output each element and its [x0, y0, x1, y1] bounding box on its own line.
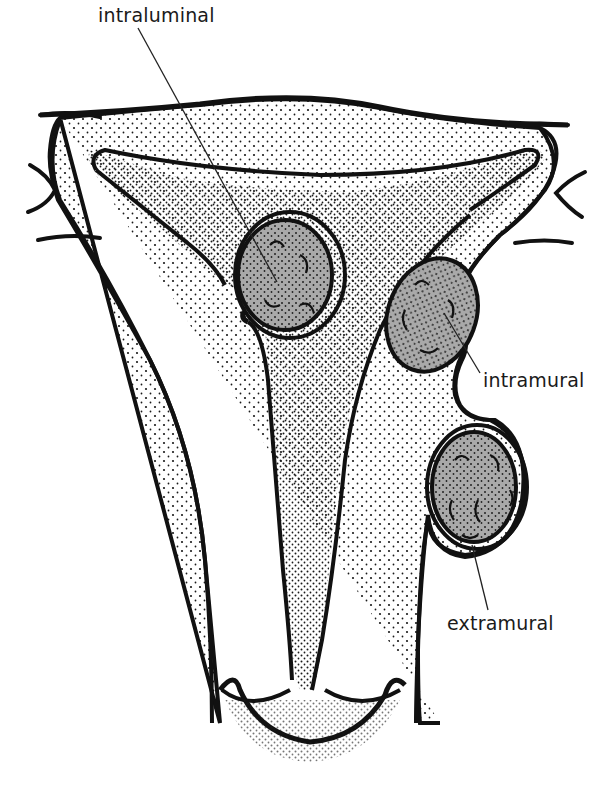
label-intramural: intramural — [483, 369, 585, 391]
label-intraluminal: intraluminal — [98, 4, 215, 26]
intraluminal-fibroid — [235, 212, 345, 338]
label-extramural: extramural — [447, 612, 554, 634]
extramural-fibroid — [427, 425, 527, 549]
uterus-fibroid-diagram — [0, 0, 614, 793]
